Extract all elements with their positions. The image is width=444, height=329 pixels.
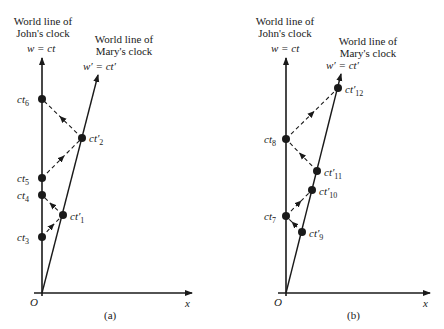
john-title-line2-b: John's clock <box>250 27 320 39</box>
john-title-line2-a: John's clock <box>8 27 78 39</box>
john-equation-b: w = ct <box>271 42 299 54</box>
caption-a: (a) <box>104 309 116 321</box>
mary-title-line2-b: Mary's clock <box>332 47 404 59</box>
label-ct12-prime: ct′12 <box>345 83 363 100</box>
label-ct6: ct6 <box>17 93 29 110</box>
panel-a <box>34 58 192 296</box>
label-ct5: ct5 <box>17 172 29 189</box>
john-title-a: World line of John's clock <box>8 15 78 39</box>
john-title-b: World line of John's clock <box>250 15 320 39</box>
event-ct9-prime <box>298 228 306 236</box>
event-ct4 <box>38 191 46 199</box>
mary-world-line-b <box>286 74 341 293</box>
mary-title-a: World line of Mary's clock <box>88 33 160 57</box>
event-ct6 <box>38 95 46 103</box>
john-equation-a: w = ct <box>27 42 55 54</box>
label-ct2-prime: ct′2 <box>89 132 103 149</box>
event-ct1-prime <box>59 211 67 219</box>
event-ct10-prime <box>308 186 316 194</box>
mary-title-line1-b: World line of <box>332 35 404 47</box>
mary-title-b: World line of Mary's clock <box>332 35 404 59</box>
label-ct11-prime: ct′11 <box>324 166 342 183</box>
label-ct8: ct8 <box>264 133 276 150</box>
x-axis-label-a: x <box>185 297 190 309</box>
label-ct4: ct4 <box>17 189 29 206</box>
label-ct10-prime: ct′10 <box>319 185 337 202</box>
event-ct7 <box>282 212 290 220</box>
mary-title-line1-a: World line of <box>88 33 160 45</box>
origin-label-b: O <box>274 296 282 308</box>
event-ct3 <box>38 233 46 241</box>
event-ct11-prime <box>313 167 321 175</box>
mary-equation-a: w′ = ct′ <box>83 60 116 72</box>
label-ct3: ct3 <box>17 231 29 248</box>
event-ct2-prime <box>78 134 86 142</box>
mary-title-line2-a: Mary's clock <box>88 45 160 57</box>
mary-equation-b: w′ = ct′ <box>326 59 359 71</box>
x-axis-label-b: x <box>423 297 428 309</box>
origin-label-a: O <box>30 296 38 308</box>
label-ct9-prime: ct′9 <box>309 227 323 244</box>
john-title-line1-b: World line of <box>250 15 320 27</box>
event-ct5 <box>38 174 46 182</box>
label-ct7: ct7 <box>264 210 276 227</box>
caption-b: (b) <box>347 309 360 321</box>
label-ct1-prime: ct′1 <box>70 210 84 227</box>
event-ct8 <box>282 135 290 143</box>
event-ct12-prime <box>334 84 342 92</box>
john-title-line1-a: World line of <box>8 15 78 27</box>
